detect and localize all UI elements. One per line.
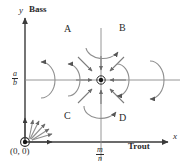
phase-plane-figure: y Bass x Trout a b m n (0, 0) A B C D [0,0,185,167]
nullclines [25,28,180,160]
x-axis-tick-label-m-over-n: m n [96,146,104,164]
y-tick-numerator: a [12,70,18,78]
direction-field-arcs [41,48,164,118]
region-label-b: B [119,23,126,33]
x-axis-name-label: Trout [128,142,150,151]
x-tick-denominator: n [96,154,104,163]
y-axis-tick-label-a-over-b: a b [12,70,18,88]
arc-bottom [84,106,116,118]
arc-top [86,48,118,59]
origin-outflow-arrows [25,118,52,142]
x-axis-variable-label: x [173,132,177,141]
y-tick-denominator: b [12,78,18,87]
region-label-c: C [64,111,71,121]
origin-label: (0, 0) [10,147,30,156]
y-axis-variable-label: y [19,6,23,15]
x-tick-numerator: m [96,146,104,154]
region-label-a: A [64,24,71,34]
y-axis-name-label: Bass [29,5,47,14]
phase-plane-canvas [0,0,185,167]
region-label-d: D [119,113,126,123]
